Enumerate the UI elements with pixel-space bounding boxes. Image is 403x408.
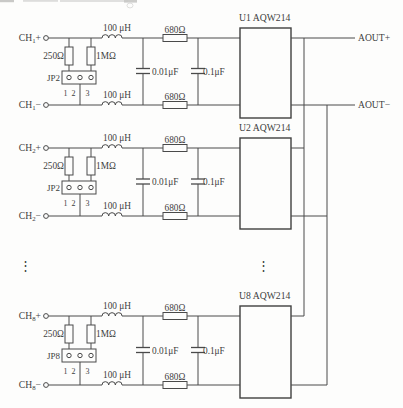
capacitor-branch-0.01uF <box>136 148 150 216</box>
scan-artifact-mark <box>0 0 14 2</box>
jumper-pin <box>67 353 71 357</box>
schematic-canvas: AOUT+AOUT−CH1+CH1−250Ω1MΩJP2123100 μH100… <box>0 0 403 408</box>
scan-artifact-mark <box>23 0 58 2</box>
resistor-680-label-positive: 680Ω <box>165 25 186 35</box>
resistor-680-label-positive: 680Ω <box>165 303 186 313</box>
channel-negative-terminal <box>44 214 49 219</box>
vertical-ellipsis-left: ⋮ <box>19 258 32 273</box>
scan-artifact-mark <box>60 0 128 2</box>
inductor-label-negative: 100 μH <box>103 201 131 211</box>
resistor-250-label: 250Ω <box>43 161 64 171</box>
pin-number-3: 3 <box>86 199 90 208</box>
cap-0.01-label: 0.01μF <box>152 346 178 356</box>
resistor-250-body <box>65 157 73 175</box>
resistor-250-label: 250Ω <box>43 51 64 61</box>
inductor-coil-negative <box>102 382 122 385</box>
chip-label: U2 AQW214 <box>239 122 291 133</box>
channel-label-negative: CH8− <box>19 379 41 391</box>
cap-0.01-label: 0.01μF <box>152 177 178 187</box>
channel-prefix: CH <box>19 379 32 390</box>
channel-positive-terminal <box>44 146 49 151</box>
channel-prefix: CH <box>19 142 32 153</box>
scan-artifact <box>0 0 137 8</box>
channel-prefix: CH <box>19 99 32 110</box>
channel-prefix: CH <box>19 310 32 321</box>
resistor-1m-label: 1MΩ <box>96 161 116 171</box>
scan-artifact-mark <box>127 3 133 8</box>
channel-sign: − <box>36 379 41 390</box>
cap-0.1-label: 0.1μF <box>203 346 225 356</box>
jumper-pin <box>78 75 82 79</box>
channel-positive-terminal <box>44 314 49 319</box>
pin-number-2: 2 <box>72 89 76 98</box>
jumper-pin <box>89 75 93 79</box>
resistor-680-body-positive <box>163 145 187 152</box>
jumper-pin <box>67 185 71 189</box>
channel-prefix: CH <box>19 32 32 43</box>
channel-label-positive: CH1+ <box>19 32 41 44</box>
jumper-pin <box>67 75 71 79</box>
channel-sign: + <box>36 310 41 321</box>
pin-number-2: 2 <box>72 199 76 208</box>
resistor-680-label-positive: 680Ω <box>165 135 186 145</box>
resistor-680-body-negative <box>163 102 187 109</box>
cap-0.1-label: 0.1μF <box>203 177 225 187</box>
resistor-250-body <box>65 325 73 343</box>
cap-0.01-label: 0.01μF <box>152 67 178 77</box>
aout-plus-label: AOUT+ <box>358 32 390 43</box>
resistor-250-body <box>65 47 73 65</box>
channel-section-1: AOUT+AOUT−CH1+CH1−250Ω1MΩJP2123100 μH100… <box>19 12 390 118</box>
resistor-1m-body <box>87 157 95 175</box>
channel-negative-terminal <box>44 103 49 108</box>
pin-number-3: 3 <box>86 367 90 376</box>
channel-section-2: CH2+CH2−250Ω1MΩJP2123100 μH100 μH680Ω680… <box>19 122 327 229</box>
chip-box <box>240 28 291 118</box>
schematic-figure: AOUT+AOUT−CH1+CH1−250Ω1MΩJP2123100 μH100… <box>0 0 403 408</box>
channel-negative-terminal <box>44 383 49 388</box>
chip-label: U1 AQW214 <box>239 12 291 23</box>
inductor-label-positive: 100 μH <box>103 301 131 311</box>
resistor-680-body-positive <box>163 35 187 42</box>
chip-box <box>240 306 291 398</box>
channel-section-8: CH8+CH8−250Ω1MΩJP8123100 μH100 μH680Ω680… <box>19 290 327 398</box>
inductor-coil-positive <box>102 313 122 316</box>
channel-sign: − <box>36 99 41 110</box>
inductor-label-negative: 100 μH <box>103 370 131 380</box>
resistor-250-label: 250Ω <box>43 329 64 339</box>
chip-label: U8 AQW214 <box>239 290 291 301</box>
resistor-680-label-negative: 680Ω <box>165 372 186 382</box>
capacitor-branch-0.01uF <box>136 316 150 385</box>
jumper-label: JP2 <box>47 183 60 193</box>
cap-0.1-label: 0.1μF <box>203 67 225 77</box>
inductor-coil-positive <box>102 35 122 38</box>
resistor-1m-body <box>87 47 95 65</box>
jumper-pin <box>89 353 93 357</box>
channel-sign: + <box>36 32 41 43</box>
inductor-label-positive: 100 μH <box>103 23 131 33</box>
chip-box <box>240 138 291 229</box>
channel-sign: − <box>36 210 41 221</box>
capacitor-branch-0.01uF <box>136 38 150 105</box>
scan-artifact-mark <box>124 0 137 3</box>
resistor-680-body-positive <box>163 313 187 320</box>
pin-number-1: 1 <box>64 367 68 376</box>
resistor-680-label-negative: 680Ω <box>165 92 186 102</box>
inductor-coil-positive <box>102 145 122 148</box>
inductor-label-positive: 100 μH <box>103 133 131 143</box>
resistor-680-body-negative <box>163 213 187 220</box>
inductor-coil-negative <box>102 102 122 105</box>
jumper-pin <box>78 185 82 189</box>
pin-number-2: 2 <box>72 367 76 376</box>
channel-label-positive: CH2+ <box>19 142 41 154</box>
resistor-680-label-negative: 680Ω <box>165 203 186 213</box>
channel-label-negative: CH1− <box>19 99 41 111</box>
channel-prefix: CH <box>19 210 32 221</box>
jumper-label: JP8 <box>47 351 61 361</box>
jumper-pin <box>89 185 93 189</box>
resistor-1m-label: 1MΩ <box>96 51 116 61</box>
inductor-label-negative: 100 μH <box>103 90 131 100</box>
vertical-ellipsis-right: ⋮ <box>257 258 270 273</box>
resistor-1m-label: 1MΩ <box>96 329 116 339</box>
channel-label-negative: CH2− <box>19 210 41 222</box>
pin-number-1: 1 <box>64 89 68 98</box>
